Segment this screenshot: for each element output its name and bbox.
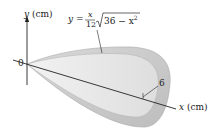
formula-exponent: 2 xyxy=(134,14,138,21)
y-axis-label-unit: (cm) xyxy=(32,9,53,19)
dimension-label: 6 xyxy=(159,78,165,88)
x-axis-label-unit: (cm) xyxy=(187,102,208,112)
x-axis-label: x (cm) xyxy=(179,102,208,112)
formula-denominator: 12 xyxy=(86,20,96,29)
y-axis-label-var: y xyxy=(24,9,29,19)
formula-lhs-text: y = xyxy=(68,14,84,24)
formula-radicand-text: 36 − x xyxy=(104,16,134,26)
formula-lhs: y = xyxy=(68,14,84,24)
x-axis-label-var: x xyxy=(179,102,184,112)
formula-radicand: 36 − x2 xyxy=(104,14,138,26)
origin-label: 0 xyxy=(18,58,24,68)
y-axis-label: y (cm) xyxy=(24,9,53,19)
formula-numerator: x xyxy=(88,10,93,19)
